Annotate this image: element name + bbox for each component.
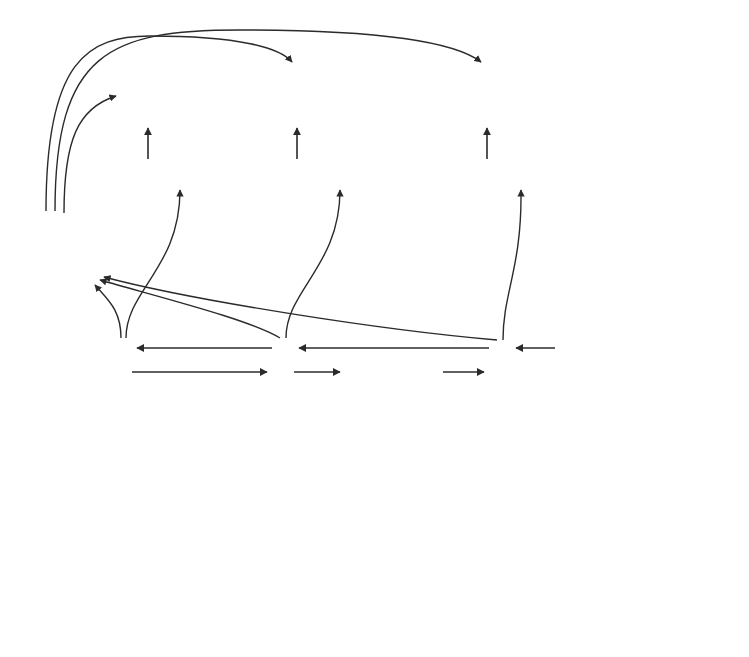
doc-to-classification-arrows	[46, 30, 481, 213]
sent3-to-doc-arrow	[104, 277, 497, 340]
sent2-to-feat2-arrow	[286, 190, 340, 338]
sent1-to-feat1-arrow	[126, 190, 180, 338]
sent3-to-feat3-arrow	[503, 190, 521, 340]
architecture-svg	[0, 0, 749, 657]
doc-to-cls-2-arrow	[46, 36, 292, 211]
doc-to-cls-1-arrow	[64, 96, 116, 213]
doc-to-cls-3-arrow	[55, 30, 481, 211]
diagram-canvas	[0, 0, 749, 657]
sentence-to-doc-arrows	[95, 277, 497, 340]
sent1-to-doc-arrow	[95, 285, 121, 338]
feature-to-classification-arrows	[148, 128, 487, 159]
sentence-recurrent-links	[132, 348, 555, 372]
sentence-to-feature-arrows	[126, 190, 521, 340]
